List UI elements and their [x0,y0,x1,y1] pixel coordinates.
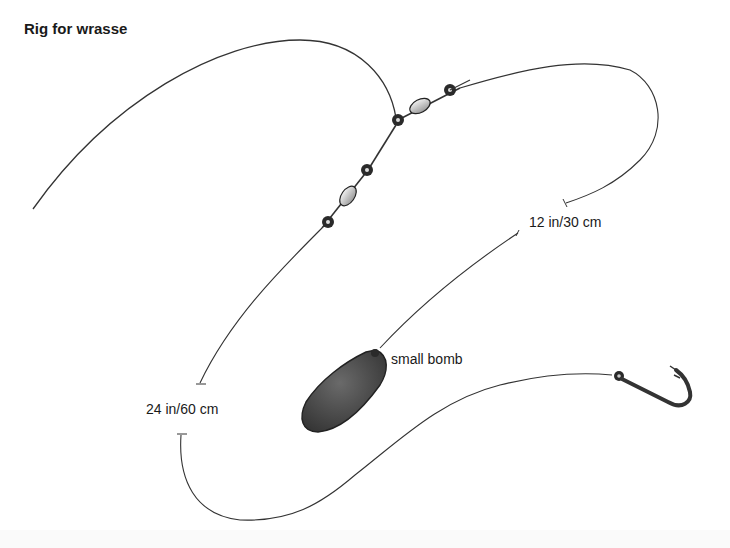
upper-swivel-pair [392,80,470,126]
hook [614,366,690,405]
rig-illustration [0,0,730,548]
lower-trace-length-label: 24 in/60 cm [146,401,218,417]
upper-trace-length-label: 12 in/30 cm [529,214,601,230]
hook-trace [181,374,612,520]
weight-trace [380,233,518,348]
lower-trace [200,228,322,383]
bomb-label: small bomb [391,351,463,367]
upper-trace-loop [460,64,658,203]
diagram-canvas: Rig for wrasse [0,0,730,548]
lower-swivel-pair [322,125,396,228]
main-line [33,40,396,209]
small-bomb-weight [302,349,386,432]
